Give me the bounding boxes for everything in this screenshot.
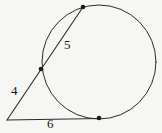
secant-near-point-dot [39,67,44,72]
secant-far-point-dot [81,5,86,10]
tangent-point-dot [97,116,102,121]
secant-chord-length-label: 5 [64,38,71,51]
tangent-length-label: 6 [47,117,54,130]
external-segment-length-label: 4 [11,84,18,97]
circle-outline [42,5,156,119]
geometry-diagram: 5 4 6 [0,0,162,133]
geometry-canvas [0,0,162,133]
tangent-line [7,119,101,121]
secant-line [7,7,83,120]
